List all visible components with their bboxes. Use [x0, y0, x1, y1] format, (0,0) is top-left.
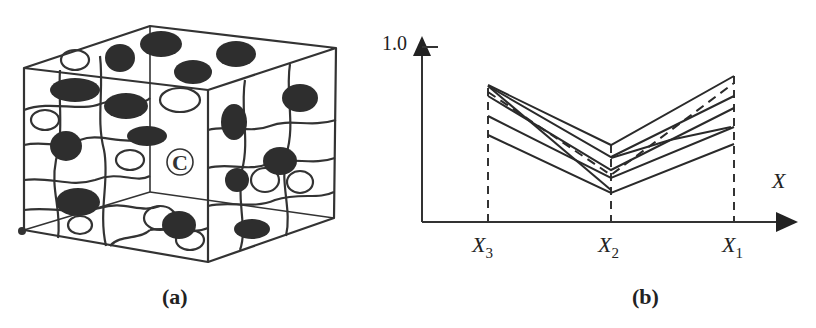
caption-a: (a)	[162, 284, 188, 310]
panel-b-composition-chart: 1.0 X X3 X2 X1 (b)	[370, 0, 816, 328]
x-tick-x3: X3	[472, 232, 493, 262]
x-tick-x1: X1	[722, 232, 743, 262]
grain-cube-illustration: C	[0, 0, 370, 328]
grain-label-c: C	[172, 150, 188, 175]
x-axis-label: X	[772, 168, 785, 194]
x-tick-x2-sub: 2	[611, 245, 619, 261]
x-axis-arrow-icon	[776, 212, 798, 232]
y-tick-label: 1.0	[382, 32, 407, 55]
x-tick-x2-base: X	[598, 232, 611, 257]
panel-a-grain-cube: C (a)	[0, 0, 370, 328]
x-tick-x3-base: X	[472, 232, 485, 257]
dark-particles	[50, 31, 318, 239]
vertical-guides	[488, 76, 734, 222]
corner-dot	[18, 227, 26, 235]
x-tick-x1-sub: 1	[735, 245, 743, 261]
x-tick-x3-sub: 3	[485, 245, 493, 261]
x-tick-x2: X2	[598, 232, 619, 262]
caption-b: (b)	[632, 284, 659, 310]
line-chart	[370, 0, 816, 328]
x-tick-x1-base: X	[722, 232, 735, 257]
